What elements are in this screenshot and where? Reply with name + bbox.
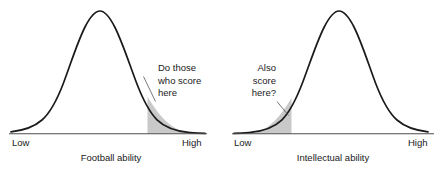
callout-line-3: here? xyxy=(228,87,276,100)
callout-leader-line xyxy=(144,77,156,102)
x-axis-tick-high: High xyxy=(408,137,428,149)
panel-football-ability: Low High Football ability Do those who s… xyxy=(0,0,222,169)
callout-line-1: Do those xyxy=(158,62,201,75)
x-axis-tick-low: Low xyxy=(12,137,29,149)
callout-also-score-here: Also score here? xyxy=(228,62,276,100)
callout-do-those-who-score-here: Do those who score here xyxy=(158,62,201,100)
callout-line-1: Also xyxy=(228,62,276,75)
callout-line-3: here xyxy=(158,87,201,100)
callout-line-2: who score xyxy=(158,75,201,88)
two-distribution-figure: Low High Football ability Do those who s… xyxy=(0,0,444,169)
x-axis-tick-low: Low xyxy=(234,137,251,149)
x-axis-tick-high: High xyxy=(182,137,202,149)
x-axis-title: Football ability xyxy=(0,152,222,164)
x-axis-title: Intellectual ability xyxy=(222,152,444,164)
panel-intellectual-ability: Low High Intellectual ability Also score… xyxy=(222,0,444,169)
callout-line-2: score xyxy=(228,75,276,88)
